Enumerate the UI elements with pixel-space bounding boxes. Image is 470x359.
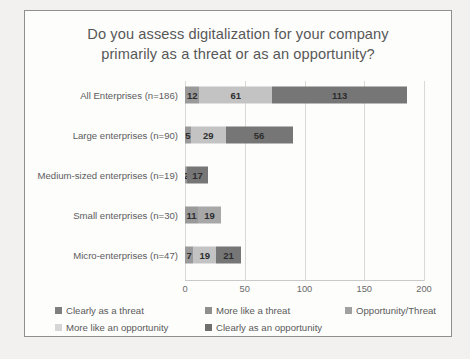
gridline-100: [305, 81, 306, 281]
category-label: Micro-enterprises (n=47): [73, 250, 185, 261]
chart-legend: Clearly as a threatMore like a threatOpp…: [55, 305, 425, 341]
legend-item[interactable]: More like a threat: [205, 305, 290, 316]
bar-segment: 12: [185, 87, 199, 104]
bar-segment: 19: [198, 207, 221, 224]
plot-area: All Enterprises (n=186)1261113Large ente…: [185, 81, 424, 281]
gridline-150: [364, 81, 365, 281]
stacked-bar: 71921: [185, 247, 241, 264]
chart-title-line-1: Do you assess digitalization for your co…: [25, 24, 451, 44]
chart-panel: Do you assess digitalization for your co…: [24, 10, 452, 337]
gridline-50: [245, 81, 246, 281]
bar-segment: 61: [199, 87, 272, 104]
category-label: Medium-sized enterprises (n=19): [37, 170, 185, 181]
legend-swatch-icon: [205, 324, 212, 331]
legend-swatch-icon: [205, 307, 212, 314]
stacked-bar: 1119: [185, 207, 221, 224]
x-axis-line: [185, 280, 424, 281]
chart-title-line-2: primarily as a threat or as an opportuni…: [25, 44, 451, 64]
stacked-bar: 1261113: [185, 87, 407, 104]
bar-segment: 113: [272, 87, 407, 104]
legend-swatch-icon: [55, 307, 62, 314]
legend-label: More like a threat: [216, 305, 290, 316]
bar-segment: 56: [226, 127, 293, 144]
chart-figure: Do you assess digitalization for your co…: [0, 0, 470, 359]
x-tick-label-50: 50: [240, 284, 250, 294]
bar-segment: 19: [193, 247, 216, 264]
legend-item[interactable]: More like an opportunity: [55, 322, 168, 333]
legend-item[interactable]: Opportunity/Threat: [345, 305, 436, 316]
stacked-bar: 217: [185, 167, 208, 184]
bar-segment: 7: [185, 247, 193, 264]
legend-label: Opportunity/Threat: [356, 305, 436, 316]
category-label: All Enterprises (n=186): [80, 90, 185, 101]
bar-segment: 11: [185, 207, 198, 224]
category-label: Small enterprises (n=30): [73, 210, 185, 221]
stacked-bar: 52956: [185, 127, 293, 144]
legend-label: Clearly as a threat: [66, 305, 144, 316]
x-tick-label-200: 200: [416, 284, 432, 294]
bar-segment: 17: [187, 167, 207, 184]
x-tick-label-100: 100: [297, 284, 313, 294]
legend-swatch-icon: [345, 307, 352, 314]
bar-segment: 29: [191, 127, 226, 144]
category-label: Large enterprises (n=90): [73, 130, 185, 141]
legend-swatch-icon: [55, 324, 62, 331]
gridline-200: [424, 81, 425, 281]
chart-title: Do you assess digitalization for your co…: [25, 24, 451, 64]
x-tick-label-150: 150: [356, 284, 372, 294]
legend-label: More like an opportunity: [66, 322, 168, 333]
legend-label: Clearly as an opportunity: [216, 322, 322, 333]
legend-item[interactable]: Clearly as a threat: [55, 305, 144, 316]
x-tick-label-0: 0: [182, 284, 187, 294]
bar-segment: 21: [216, 247, 241, 264]
legend-item[interactable]: Clearly as an opportunity: [205, 322, 322, 333]
